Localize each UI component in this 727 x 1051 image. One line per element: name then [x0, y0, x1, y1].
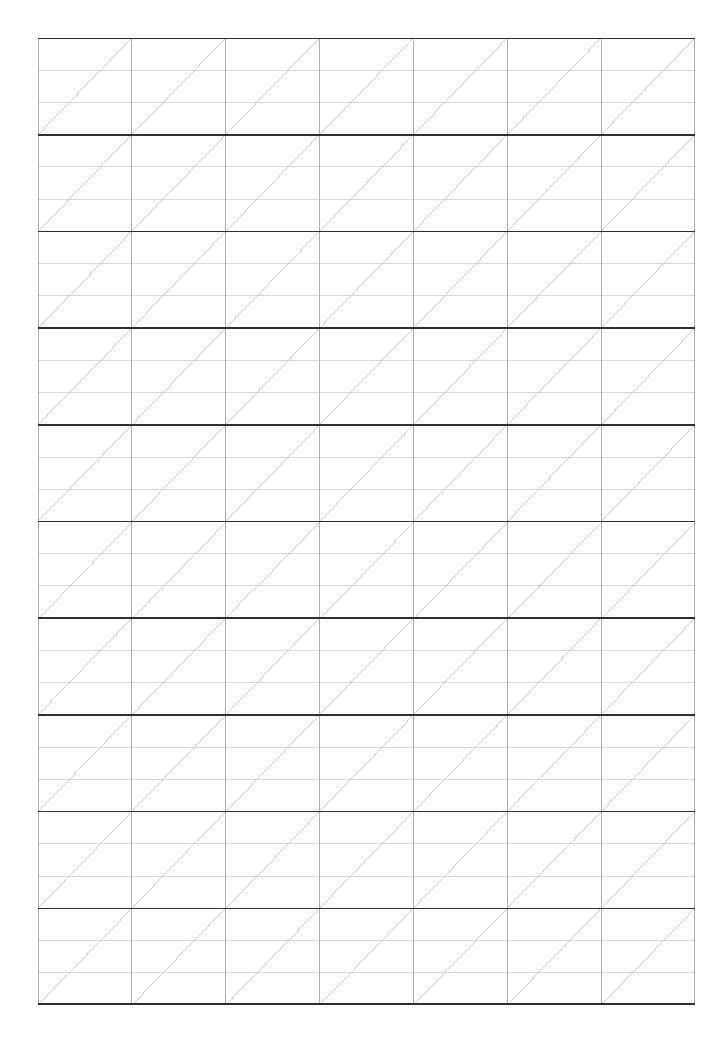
cell-diagonal — [601, 135, 695, 232]
cell-diagonal — [226, 135, 320, 232]
cell-diagonal — [507, 618, 601, 715]
cell-diagonal — [226, 812, 320, 909]
cell-diagonal — [507, 908, 601, 1005]
cell-diagonal — [507, 425, 601, 522]
cell-diagonal — [132, 908, 226, 1005]
cell-diagonal — [507, 231, 601, 328]
cell-diagonal — [320, 425, 414, 522]
cell-diagonal — [132, 231, 226, 328]
cell-diagonal — [38, 425, 132, 522]
cell-diagonal — [38, 38, 132, 135]
practice-grid-canvas — [38, 38, 695, 1005]
cell-diagonal — [507, 135, 601, 232]
cell-diagonal — [601, 908, 695, 1005]
cell-diagonal — [413, 38, 507, 135]
cell-diagonal — [132, 328, 226, 425]
cell-diagonal — [413, 135, 507, 232]
cell-diagonal — [413, 715, 507, 812]
cell-diagonal — [38, 908, 132, 1005]
cell-diagonal — [320, 38, 414, 135]
cell-diagonal — [601, 231, 695, 328]
cell-diagonal — [132, 715, 226, 812]
cell-diagonal — [507, 812, 601, 909]
cell-diagonal — [38, 328, 132, 425]
cell-diagonal — [38, 231, 132, 328]
cell-diagonal — [132, 522, 226, 619]
cell-diagonal — [601, 812, 695, 909]
cell-diagonal — [320, 522, 414, 619]
cell-diagonal — [413, 908, 507, 1005]
header-artifact-strip: ▫ ▫▫ ▫▫▫ ▫ ▫▫ — [0, 0, 727, 12]
cell-diagonal — [38, 522, 132, 619]
cell-diagonal — [226, 328, 320, 425]
cell-diagonal — [413, 618, 507, 715]
cell-diagonal — [132, 38, 226, 135]
cell-diagonal — [320, 618, 414, 715]
cell-diagonal — [38, 135, 132, 232]
cell-diagonal — [226, 425, 320, 522]
practice-sheet-page: ▫ ▫▫ ▫▫▫ ▫ ▫▫ — [0, 0, 727, 1051]
cell-diagonal — [320, 812, 414, 909]
cell-diagonal — [320, 328, 414, 425]
cell-diagonal — [132, 618, 226, 715]
cell-diagonal — [226, 715, 320, 812]
cell-diagonal — [413, 328, 507, 425]
cell-diagonal — [507, 522, 601, 619]
cell-diagonal — [132, 425, 226, 522]
cell-diagonal — [601, 328, 695, 425]
cell-diagonal — [226, 522, 320, 619]
cell-diagonal — [413, 425, 507, 522]
cell-diagonal — [507, 38, 601, 135]
cell-diagonal — [38, 812, 132, 909]
cell-diagonal — [38, 715, 132, 812]
cell-diagonal — [226, 908, 320, 1005]
cell-diagonal — [413, 812, 507, 909]
cell-diagonal — [320, 231, 414, 328]
cell-diagonal — [132, 812, 226, 909]
cell-diagonal — [601, 38, 695, 135]
cell-diagonal — [413, 231, 507, 328]
cell-diagonal — [601, 715, 695, 812]
cell-diagonal — [320, 715, 414, 812]
cell-diagonal — [226, 38, 320, 135]
cell-diagonal — [320, 135, 414, 232]
cell-diagonal — [226, 618, 320, 715]
cell-diagonal — [226, 231, 320, 328]
cell-diagonal — [507, 328, 601, 425]
practice-grid — [38, 38, 695, 1005]
cell-diagonal — [601, 522, 695, 619]
cell-diagonal — [320, 908, 414, 1005]
cell-diagonal — [38, 618, 132, 715]
cell-diagonal — [413, 522, 507, 619]
header-ghost-text: ▫ ▫▫ ▫▫▫ ▫ ▫▫ — [330, 0, 408, 7]
cell-diagonal — [507, 715, 601, 812]
cell-diagonal — [601, 618, 695, 715]
cell-diagonal — [132, 135, 226, 232]
cell-diagonal — [601, 425, 695, 522]
